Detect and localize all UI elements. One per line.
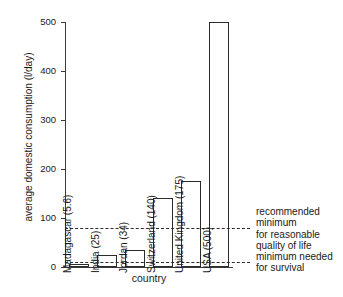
y-tick-label: 300 [28,115,56,125]
y-tick-mark [61,22,65,23]
y-tick-mark [61,71,65,72]
bar-label-usa: USA (500) [203,227,213,273]
reference-line-recommended-minimum [65,228,250,229]
y-tick-label: 500 [28,17,56,27]
annotation-survival-minimum: minimum needed for survival [256,251,333,274]
y-tick-label: 200 [28,164,56,174]
annotation-recommended-minimum: recommended minimum for reasonable quali… [256,206,320,252]
y-tick-label: 0 [28,262,56,272]
y-tick-mark [61,120,65,121]
bar-label-united-kingdom: United Kingdom (175) [175,176,185,273]
y-tick-mark [61,169,65,170]
reference-line-survival-minimum [65,262,250,263]
bar-label-jordan: Jordan (34) [119,222,129,273]
chart-container: average domestic consumption (l/day) 010… [0,0,343,297]
y-tick-label: 400 [28,66,56,76]
y-tick-label: 100 [28,213,56,223]
x-axis-title: country [65,272,233,284]
bar-label-india: India (25) [91,231,101,273]
